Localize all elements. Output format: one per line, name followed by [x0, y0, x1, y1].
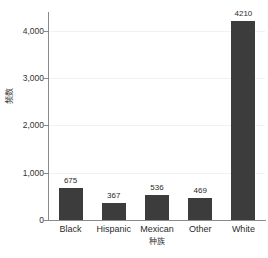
bar-value-label: 367: [102, 192, 126, 200]
bar-group: 4210: [231, 12, 255, 220]
bar[interactable]: [102, 203, 126, 220]
bar[interactable]: [59, 188, 83, 220]
y-axis-tick-labels: 01,0002,0003,0004,000: [0, 0, 44, 258]
x-axis-category-labels: BlackHispanicMexicanOtherWhite: [49, 224, 265, 238]
x-axis-label: 种族: [49, 237, 265, 246]
bar[interactable]: [231, 21, 255, 220]
bar-value-label: 4210: [231, 10, 255, 18]
bar-value-label: 469: [188, 187, 212, 195]
bar-group: 675: [59, 12, 83, 220]
y-axis-tick-label: 0: [2, 216, 44, 225]
bar[interactable]: [145, 195, 169, 220]
bar-chart: 频数 01,0002,0003,0004,000 675367536469421…: [0, 0, 268, 258]
bar-group: 536: [145, 12, 169, 220]
x-axis-category-label: Black: [49, 224, 92, 234]
bar-value-label: 675: [59, 177, 83, 185]
y-axis-tick-label: 3,000: [2, 74, 44, 83]
y-axis-tick-label: 1,000: [2, 169, 44, 178]
x-axis-category-label: Other: [179, 224, 222, 234]
x-axis-baseline: [48, 220, 266, 221]
x-axis-category-label: Hispanic: [92, 224, 135, 234]
bar-group: 469: [188, 12, 212, 220]
y-axis-tick-label: 4,000: [2, 27, 44, 36]
y-axis-tick-label: 2,000: [2, 121, 44, 130]
bar-group: 367: [102, 12, 126, 220]
bar[interactable]: [188, 198, 212, 220]
plot-area: 6753675364694210: [49, 12, 265, 220]
bar-value-label: 536: [145, 184, 169, 192]
x-axis-category-label: Mexican: [135, 224, 178, 234]
x-axis-category-label: White: [222, 224, 265, 234]
